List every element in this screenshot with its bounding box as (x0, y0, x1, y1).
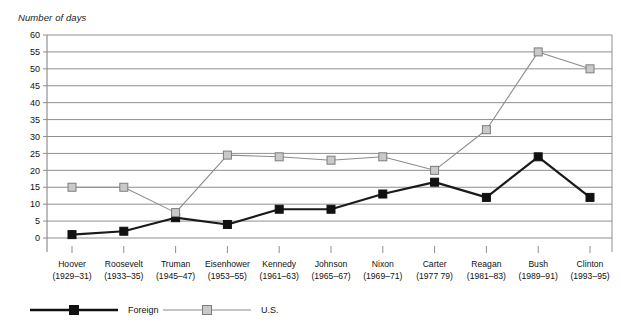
x-tick-labels-group: Hoover(1929–31)Roosevelt(1933–35)Truman(… (52, 259, 609, 281)
y-tick-label: 15 (30, 182, 40, 192)
series-line-us (72, 52, 590, 213)
data-point-marker (223, 220, 231, 228)
data-point-marker (68, 231, 76, 239)
data-point-marker (482, 126, 490, 134)
data-point-marker (586, 65, 594, 73)
x-tick-label-name: Johnson (315, 259, 348, 269)
data-point-marker (586, 193, 594, 201)
y-tick-label: 10 (30, 199, 40, 209)
y-tick-label: 60 (30, 30, 40, 40)
x-tick-label-name: Truman (161, 259, 191, 269)
y-tick-label: 45 (30, 81, 40, 91)
data-point-marker (379, 153, 387, 161)
data-point-marker (68, 183, 76, 191)
data-point-marker (223, 151, 231, 159)
legend-item-foreign[interactable]: Foreign (30, 305, 159, 315)
x-tick-label-name: Roosevelt (105, 259, 144, 269)
data-point-marker (534, 153, 542, 161)
data-point-marker (482, 193, 490, 201)
x-tick-label-name: Hoover (58, 259, 86, 269)
data-point-marker (327, 205, 335, 213)
x-tick-label-name: Nixon (372, 259, 394, 269)
series-line-foreign (72, 157, 590, 235)
data-point-marker (172, 209, 180, 217)
data-point-marker (275, 205, 283, 213)
data-point-marker (275, 153, 283, 161)
x-tick-label-years: (1945–47) (156, 271, 195, 281)
x-tick-label-years: (1961–63) (260, 271, 299, 281)
data-point-marker (120, 183, 128, 191)
y-tick-label: 25 (30, 149, 40, 159)
y-tick-label: 30 (30, 132, 40, 142)
x-tick-label-years: (1953–55) (208, 271, 247, 281)
data-point-marker (379, 190, 387, 198)
y-tick-label: 20 (30, 166, 40, 176)
data-series-group (68, 48, 594, 239)
y-tick-label: 50 (30, 64, 40, 74)
legend-marker (203, 306, 212, 315)
x-tick-label-years: (1965–67) (311, 271, 350, 281)
x-tick-label-years: (1989–91) (519, 271, 558, 281)
x-tick-label-years: (1929–31) (52, 271, 91, 281)
legend-item-us[interactable]: U.S. (163, 305, 279, 315)
y-tick-label: 5 (35, 216, 40, 226)
x-tick-label-name: Eisenhower (205, 259, 250, 269)
y-tick-label: 35 (30, 115, 40, 125)
data-point-marker (120, 227, 128, 235)
y-tick-label: 40 (30, 98, 40, 108)
x-tick-label-years: (1969–71) (363, 271, 402, 281)
legend-marker (70, 306, 79, 315)
line-chart-plot: 051015202530354045505560 Hoover(1929–31)… (0, 0, 621, 331)
x-tick-label-name: Kennedy (262, 259, 297, 269)
data-point-marker (431, 166, 439, 174)
x-tick-label-name: Reagan (471, 259, 501, 269)
legend-label: U.S. (261, 305, 279, 315)
x-tick-label-name: Clinton (577, 259, 604, 269)
x-tick-marks-group (72, 246, 590, 253)
x-tick-label-name: Carter (423, 259, 447, 269)
data-point-marker (431, 178, 439, 186)
x-tick-label-name: Bush (528, 259, 548, 269)
data-point-marker (534, 48, 542, 56)
x-tick-label-years: (1993–95) (570, 271, 609, 281)
x-tick-label-years: (1977 79) (416, 271, 453, 281)
y-tick-label: 0 (35, 233, 40, 243)
legend-label: Foreign (128, 305, 159, 315)
y-tick-labels-group: 051015202530354045505560 (30, 30, 47, 243)
chart-container: Number of days 051015202530354045505560 … (0, 0, 621, 331)
x-tick-label-years: (1981–83) (467, 271, 506, 281)
data-point-marker (327, 156, 335, 164)
y-tick-label: 55 (30, 47, 40, 57)
legend-group: ForeignU.S. (30, 305, 279, 315)
x-tick-label-years: (1933–35) (104, 271, 143, 281)
